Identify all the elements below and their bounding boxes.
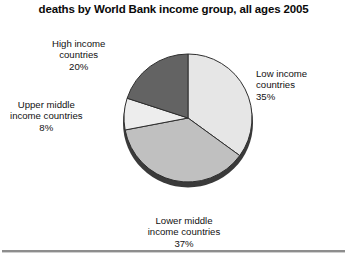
- slice-label-lower-middle-income-line2: income countries: [124, 226, 244, 237]
- footer-divider-highlight: [2, 252, 345, 253]
- slice-label-low-income-value: 35%: [256, 91, 307, 102]
- slice-label-upper-middle-income-line2: income countries: [10, 110, 83, 121]
- slice-label-low-income-line2: countries: [256, 79, 307, 90]
- slice-label-high-income-line2: countries: [52, 49, 105, 60]
- pie-chart-svg: [118, 28, 263, 210]
- slice-label-upper-middle-income-line1: Upper middle: [10, 99, 83, 110]
- slice-label-lower-middle-income-line1: Lower middle: [124, 215, 244, 226]
- pie-chart: [118, 28, 263, 210]
- slice-label-high-income-value: 20%: [52, 61, 105, 72]
- pie-chart-figure: deaths by World Bank income group, all a…: [0, 0, 347, 264]
- slice-label-lower-middle-income: Lower middle income countries 37%: [124, 215, 244, 249]
- slice-label-lower-middle-income-value: 37%: [124, 238, 244, 249]
- slice-label-high-income: High income countries 20%: [52, 38, 105, 72]
- slice-label-upper-middle-income-value: 8%: [10, 122, 83, 133]
- slice-label-high-income-line1: High income: [52, 38, 105, 49]
- slice-label-low-income-line1: Low income: [256, 68, 307, 79]
- page-title: deaths by World Bank income group, all a…: [0, 2, 347, 16]
- slice-label-upper-middle-income: Upper middle income countries 8%: [10, 99, 83, 133]
- slice-label-low-income: Low income countries 35%: [256, 68, 307, 102]
